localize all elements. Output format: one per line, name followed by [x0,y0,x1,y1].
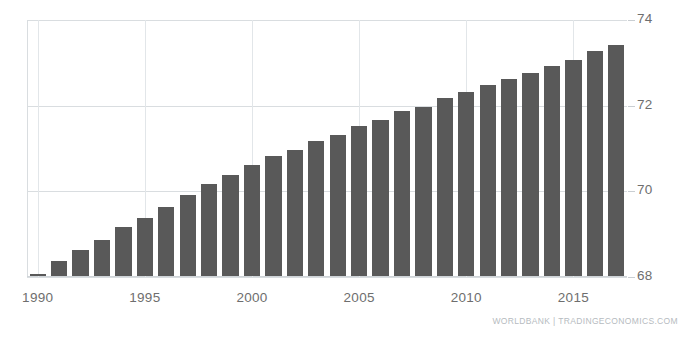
bar[interactable] [115,227,131,276]
bar[interactable] [137,218,153,276]
x-tick-label-2000: 2000 [236,290,267,305]
bar[interactable] [308,141,324,276]
bar[interactable] [565,60,581,276]
bar[interactable] [201,184,217,276]
x-tick-label-1995: 1995 [129,290,160,305]
bar[interactable] [544,66,560,276]
bar[interactable] [244,165,260,276]
bar[interactable] [351,126,367,276]
chart-container: 68707274 199019952000200520102015 WORLDB… [0,0,692,342]
bar[interactable] [265,156,281,276]
y-tick-label-72: 72 [637,97,683,112]
bar-series [27,20,627,277]
source-attribution: WORLDBANK | TRADINGECONOMICS.COM [492,316,678,326]
x-tick-label-2010: 2010 [451,290,482,305]
bar[interactable] [608,45,624,276]
bar[interactable] [158,207,174,276]
bar[interactable] [372,120,388,276]
bar[interactable] [587,51,603,276]
bar[interactable] [72,250,88,276]
plot-area [27,20,627,277]
gridline-y-68 [27,277,627,278]
bar[interactable] [30,274,46,276]
y-tick-mark-74 [628,20,635,21]
x-tick-label-1990: 1990 [22,290,53,305]
bar[interactable] [437,98,453,276]
bar[interactable] [480,85,496,276]
y-tick-mark-72 [628,106,635,107]
bar[interactable] [501,79,517,276]
bar[interactable] [94,240,110,276]
y-tick-label-74: 74 [637,11,683,26]
bar[interactable] [330,135,346,276]
y-tick-mark-68 [628,277,635,278]
y-tick-mark-70 [628,191,635,192]
bar[interactable] [287,150,303,276]
bar[interactable] [394,111,410,276]
bar[interactable] [222,175,238,276]
bar[interactable] [522,73,538,276]
y-tick-label-70: 70 [637,182,683,197]
y-tick-label-68: 68 [637,268,683,283]
bar[interactable] [415,107,431,276]
bar[interactable] [51,261,67,276]
bar[interactable] [180,195,196,276]
bar[interactable] [458,92,474,276]
x-tick-label-2015: 2015 [558,290,589,305]
x-tick-label-2005: 2005 [344,290,375,305]
